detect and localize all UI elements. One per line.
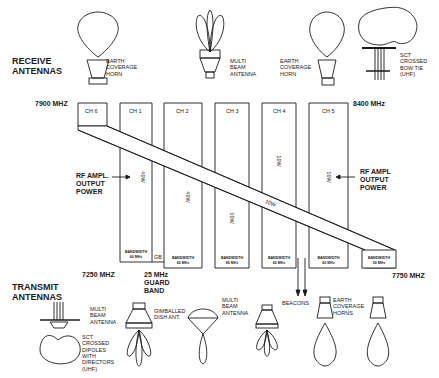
guard-band-label: 25 MHz GUARD BAND xyxy=(144,271,170,295)
freq-7250: 7250 MHZ xyxy=(82,271,115,279)
crossed-dipoles-label: SCT CROSSED DIPOLES WITH DIRECTORS (UHF) xyxy=(82,334,114,372)
gb-label: GB xyxy=(154,254,162,260)
rf-ampl-right: RF AMPL OUTPUT POWER xyxy=(360,168,391,192)
beacons-label: BEACONS xyxy=(282,300,309,306)
gimballed-dish-label: GIMBALLED DISH ANT. xyxy=(154,308,185,321)
gimballed-dish-icon xyxy=(188,309,218,364)
multi-beam-antenna-icon xyxy=(126,303,152,366)
crossed-dipoles-icon xyxy=(40,302,80,364)
ch2-power: 40W xyxy=(185,191,191,202)
ch3-power: 10W xyxy=(229,212,235,223)
receive-antennas-heading: RECEIVE ANTENNAS xyxy=(12,56,62,77)
rf-ampl-left: RF AMPL. OUTPUT POWER xyxy=(76,172,109,196)
bow-tie-label: SCT CROSSED BOW TIE (UHF) xyxy=(400,52,427,77)
ch5-bandwidth: BANDWIDTH 60 MHz xyxy=(309,256,348,265)
channel-boxes xyxy=(78,103,396,268)
ch5-power: 10W xyxy=(326,171,332,182)
ch6-label: CH 6 xyxy=(85,108,98,114)
earth-coverage-horn-icon xyxy=(310,12,345,85)
transmit-multibeam-label: MULTI BEAM ANTENNA xyxy=(90,306,116,325)
ch3-label: CH 3 xyxy=(226,108,239,114)
multi-beam-antenna-icon xyxy=(256,305,278,356)
earth-coverage-horn-icon xyxy=(367,297,388,366)
transmit-multibeam-2-label: MULTI BEAM ANTENNA xyxy=(222,297,248,316)
ch2-label: CH 2 xyxy=(176,108,189,114)
ch1-label: CH 1 xyxy=(129,108,142,114)
ch4-label: CH 4 xyxy=(273,108,286,114)
ch4-bandwidth: BANDWIDTH 60 MHz xyxy=(262,256,296,265)
ch3-bandwidth: BANDWIDTH 85 MHz xyxy=(215,256,249,265)
ch6-bandwidth: BANDWIDTH 50 MHz xyxy=(362,256,396,265)
ch5-label: CH 5 xyxy=(322,108,335,114)
freq-8400: 8400 MHz xyxy=(353,100,385,108)
receive-horn-2-label: EARTH COVERAGE HORN xyxy=(280,58,311,77)
earth-coverage-horns-label: EARTH COVERAGE HORNS xyxy=(333,297,364,316)
multi-beam-antenna-icon xyxy=(196,10,224,78)
receive-multibeam-label: MULTI BEAM ANTENNA xyxy=(230,58,256,77)
ch1-power: 40W xyxy=(140,171,146,182)
ch4-power: 10W xyxy=(276,155,282,166)
freq-7900: 7900 MHZ xyxy=(35,100,68,108)
receive-horn-label: EARTH COVERAGE HORN xyxy=(106,58,137,77)
ch2-bandwidth: BANDWIDTH 60 MHz xyxy=(164,256,202,265)
freq-7750: 7750 MHZ xyxy=(392,272,425,280)
ch1-bandwidth: BANDWIDTH 60 MHz xyxy=(120,250,152,259)
transmit-antennas-heading: TRANSMIT ANTENNAS xyxy=(12,282,62,303)
